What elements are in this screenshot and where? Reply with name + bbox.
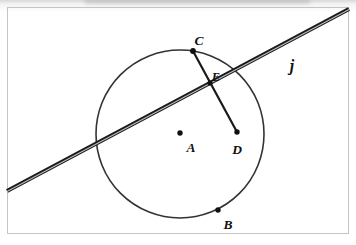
label-point-b: B [222, 217, 232, 232]
label-line-j: j [287, 57, 295, 75]
scanned-figure-page: C E D A B j [0, 0, 356, 245]
point-d [234, 129, 239, 134]
scan-artifact-top [85, 0, 310, 3]
label-point-d: D [231, 142, 242, 157]
segment-c-d [193, 51, 237, 132]
point-b [215, 207, 220, 212]
label-point-c: C [194, 33, 204, 48]
label-point-e: E [211, 70, 220, 84]
figure-frame [8, 8, 349, 234]
label-center-a: A [185, 140, 195, 155]
point-c [190, 48, 196, 54]
point-a-center [177, 130, 182, 135]
geometry-diagram: C E D A B j [0, 0, 356, 245]
secant-line-j-highlight [7, 10, 349, 192]
